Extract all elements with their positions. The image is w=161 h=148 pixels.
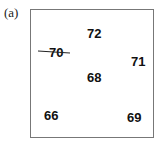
strike-line bbox=[0, 0, 161, 148]
